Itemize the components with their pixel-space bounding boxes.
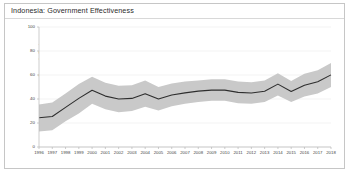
chart-widget: Indonesia: Government Effectiveness Perc… (0, 0, 357, 175)
chart-frame: Indonesia: Government Effectiveness Perc… (4, 3, 345, 169)
chart-title-bar: Indonesia: Government Effectiveness (5, 4, 344, 19)
page-title: Indonesia: Government Effectiveness (11, 6, 134, 15)
plot-area: Percentile Rank 020406080100 19961997199… (5, 19, 344, 168)
chart-svg (5, 19, 346, 169)
